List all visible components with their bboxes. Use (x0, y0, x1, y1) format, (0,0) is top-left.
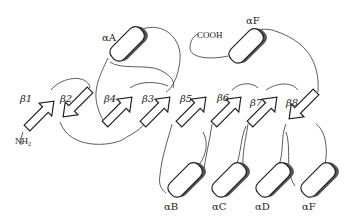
label-n-terminus: NH2 (15, 136, 31, 147)
helix-aF-top (226, 24, 270, 68)
label-b8: β8 (285, 97, 298, 108)
label-aF-top: αF (246, 15, 260, 26)
strand-b5 (173, 91, 213, 131)
label-aC: αC (212, 201, 227, 212)
label-b5: β5 (179, 93, 192, 104)
label-aD: αD (255, 201, 270, 212)
label-b3: β3 (141, 93, 154, 104)
label-aA: αA (102, 32, 117, 43)
label-c-terminus: COOH (197, 30, 223, 40)
helix-aC (209, 158, 253, 202)
label-aF-bottom: αF (302, 201, 316, 212)
label-b6: β6 (216, 92, 230, 103)
helix-aB (165, 158, 209, 202)
label-aB: αB (164, 201, 178, 212)
label-b2: β2 (59, 93, 72, 104)
label-b7: β7 (249, 97, 263, 108)
helix-aF-bottom (298, 158, 342, 202)
helix-aD (253, 158, 297, 202)
label-b1: β1 (19, 93, 32, 104)
protein-topology-diagram: β1 β2 β4 β3 β5 β6 β7 β8 αA αF αB αC αD α… (0, 0, 355, 224)
label-b4: β4 (103, 93, 116, 104)
